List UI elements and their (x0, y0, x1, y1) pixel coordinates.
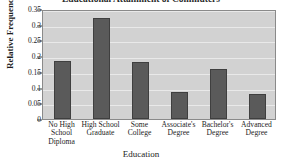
gridline (43, 105, 275, 106)
gridline (43, 42, 275, 43)
y-axis-tick-label: 0.1 (7, 85, 41, 93)
y-axis-tick-label: 0.25 (7, 38, 41, 46)
x-axis-tick-label-line: Diploma (37, 138, 86, 146)
bar-chart-figure: Educational Attainment of Commuters Rela… (0, 0, 282, 162)
plot-area (42, 10, 276, 120)
y-axis-tick-label: 0.15 (7, 69, 41, 77)
gridline (43, 27, 275, 28)
bar (54, 61, 70, 119)
x-axis-tick-labels: No HighSchoolDiplomaHigh SchoolGraduateS… (42, 121, 276, 151)
bar (132, 62, 148, 119)
y-axis-tick-label: 0.35 (7, 6, 41, 14)
y-axis-tick-label: 0 (7, 116, 41, 124)
gridline (43, 58, 275, 59)
x-axis-tick-label: AdvancedDegree (232, 121, 281, 138)
bar (210, 69, 226, 119)
gridline (43, 74, 275, 75)
y-axis-tick-label: 0.3 (7, 22, 41, 30)
chart-title: Educational Attainment of Commuters (0, 0, 282, 4)
bar (93, 18, 109, 119)
y-axis-tick-label: 0.2 (7, 53, 41, 61)
x-axis-tick-label-line: Degree (232, 129, 281, 137)
bar (171, 92, 187, 119)
gridline (43, 11, 275, 12)
bar (249, 94, 265, 119)
x-axis-label: Education (0, 149, 282, 159)
y-axis-tick-label: 0.05 (7, 101, 41, 109)
gridline (43, 90, 275, 91)
